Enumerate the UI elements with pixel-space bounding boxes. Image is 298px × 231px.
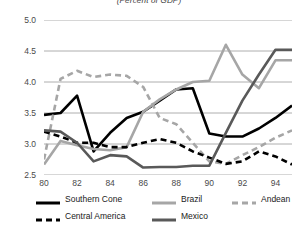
legend-label: Andean <box>261 194 290 204</box>
y-tick-label: 3.5 <box>24 108 36 118</box>
x-axis-labels: 8082848688909294 <box>44 178 292 192</box>
x-tick-label: 90 <box>205 178 214 188</box>
y-tick-label: 4.5 <box>24 46 36 56</box>
y-tick-label: 3.0 <box>24 139 36 149</box>
x-tick-label: 86 <box>138 178 147 188</box>
x-tick-label: 84 <box>105 178 114 188</box>
y-tick-label: 4.0 <box>24 77 36 87</box>
x-tick-label: 92 <box>238 178 247 188</box>
legend-item-southern-cone[interactable]: Southern Cone <box>36 194 122 204</box>
legend-label: Central America <box>65 211 125 221</box>
legend-item-mexico[interactable]: Mexico <box>152 211 208 221</box>
y-tick-label: 5.0 <box>24 15 36 25</box>
legend-item-brazil[interactable]: Brazil <box>152 194 202 204</box>
y-axis-labels: 5.04.54.03.53.02.5 <box>0 20 40 175</box>
plot-svg <box>44 20 292 175</box>
x-tick-label: 82 <box>72 178 81 188</box>
legend-item-andean[interactable]: Andean <box>232 194 290 204</box>
chart-legend: Southern ConeBrazilAndeanCentral America… <box>36 194 298 230</box>
y-tick-label: 2.5 <box>24 170 36 180</box>
x-tick-label: 94 <box>271 178 280 188</box>
plot-area <box>44 20 292 175</box>
legend-item-central-america[interactable]: Central America <box>36 211 125 221</box>
legend-label: Mexico <box>181 211 208 221</box>
chart-subtitle: (Percent of GDP) <box>0 0 298 5</box>
legend-label: Southern Cone <box>65 194 122 204</box>
x-tick-label: 88 <box>172 178 181 188</box>
x-tick-label: 80 <box>39 178 48 188</box>
legend-label: Brazil <box>181 194 202 204</box>
chart-container: (Percent of GDP) 5.04.54.03.53.02.5 8082… <box>0 0 298 231</box>
